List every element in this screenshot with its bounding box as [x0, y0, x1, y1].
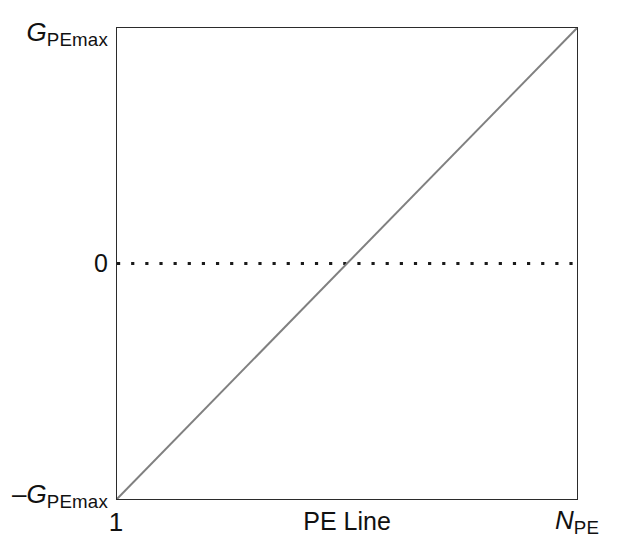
- gradient-ramp-line: [117, 28, 577, 499]
- chart-figure: GPEmax 0 –GPEmax 1 PE Line NPE: [0, 0, 618, 560]
- y-axis-label-min: –GPEmax: [0, 481, 108, 511]
- y-axis-label-min-sign: –: [12, 479, 26, 509]
- plot-canvas: [117, 28, 577, 499]
- y-axis-label-max-subscript: PEmax: [47, 29, 108, 50]
- plot-area: [116, 27, 578, 500]
- y-axis-label-max: GPEmax: [0, 19, 108, 49]
- x-axis-label-end-subscript: PE: [574, 517, 599, 538]
- y-axis-label-max-variable: G: [27, 17, 47, 47]
- x-axis-title: PE Line: [116, 509, 578, 534]
- y-axis-label-min-variable: G: [27, 479, 47, 509]
- x-axis-label-end-variable: N: [555, 505, 574, 535]
- y-axis-label-zero: 0: [0, 251, 108, 276]
- x-axis-label-end: NPE: [536, 507, 618, 537]
